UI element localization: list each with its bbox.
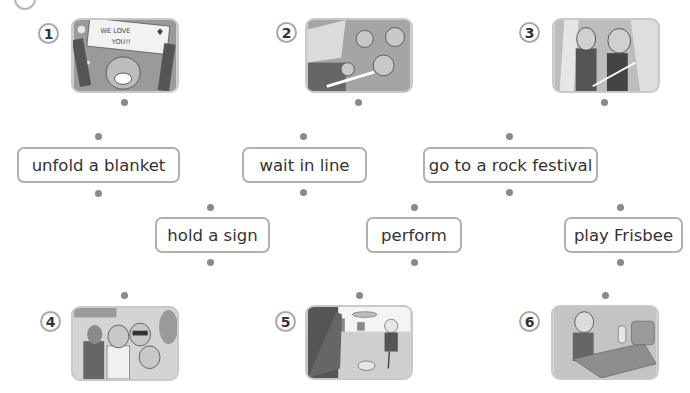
phrase-box-unfold-a-blanket: unfold a blanket: [17, 147, 180, 183]
picture-5-connector-dot[interactable]: [356, 292, 363, 299]
phrase-perform-top-dot[interactable]: [411, 204, 418, 211]
phrase-label: wait in line: [260, 156, 350, 175]
phrase-box-hold-a-sign: hold a sign: [155, 217, 270, 253]
phrase-wait-in-line-bottom-dot[interactable]: [300, 189, 307, 196]
phrase-label: hold a sign: [167, 226, 257, 245]
picture-number-6: 6: [519, 311, 540, 332]
picture-number-4: 4: [40, 311, 61, 332]
picture-1-connector-dot[interactable]: [121, 99, 128, 106]
picture-number-3: 3: [519, 22, 540, 43]
number-label: 4: [46, 314, 56, 330]
number-label: 5: [281, 314, 291, 330]
phrase-unfold-a-blanket-top-dot[interactable]: [95, 133, 102, 140]
picture-6-connector-dot[interactable]: [602, 292, 609, 299]
picture-4-illustration: [73, 308, 177, 379]
number-label: 3: [525, 25, 535, 41]
picture-2-connector-dot[interactable]: [355, 99, 362, 106]
picture-5-illustration: [307, 307, 411, 378]
picture-3-connector-dot[interactable]: [601, 99, 608, 106]
phrase-hold-a-sign-bottom-dot[interactable]: [207, 259, 214, 266]
picture-number-1: 1: [38, 23, 59, 44]
phrase-unfold-a-blanket-bottom-dot[interactable]: [95, 190, 102, 197]
phrase-go-to-a-rock-festival-top-dot[interactable]: [506, 133, 513, 140]
picture-number-2: 2: [276, 22, 297, 43]
picture-6-illustration: [553, 307, 657, 378]
number-label: 2: [282, 25, 292, 41]
picture-6-unfold-blanket: [551, 305, 659, 380]
phrase-hold-a-sign-top-dot[interactable]: [207, 204, 214, 211]
phrase-box-wait-in-line: wait in line: [242, 147, 367, 183]
picture-4-connector-dot[interactable]: [121, 292, 128, 299]
phrase-wait-in-line-top-dot[interactable]: [300, 133, 307, 140]
picture-1-illustration: WE LOVE YOU!!: [73, 20, 177, 91]
phrase-label: unfold a blanket: [32, 156, 166, 175]
phrase-play-frisbee-bottom-dot[interactable]: [617, 259, 624, 266]
phrase-label: perform: [381, 226, 447, 245]
phrase-label: play Frisbee: [574, 226, 673, 245]
phrase-box-go-to-a-rock-festival: go to a rock festival: [423, 147, 598, 183]
phrase-perform-bottom-dot[interactable]: [411, 259, 418, 266]
number-label: 6: [525, 314, 535, 330]
phrase-label: go to a rock festival: [429, 156, 592, 175]
picture-2-illustration: [307, 20, 411, 91]
picture-3-illustration: [554, 20, 658, 91]
phrase-play-frisbee-top-dot[interactable]: [617, 204, 624, 211]
instruction-number-marker: [14, 0, 36, 10]
phrase-box-play-frisbee: play Frisbee: [564, 217, 683, 253]
phrase-box-perform: perform: [366, 217, 462, 253]
picture-5-play-frisbee: [305, 305, 413, 380]
picture-number-5: 5: [275, 311, 296, 332]
sign-text-line1: WE LOVE: [100, 27, 130, 35]
picture-3-perform: [552, 18, 660, 93]
picture-1-hold-sign: WE LOVE YOU!!: [71, 18, 179, 93]
number-label: 1: [44, 26, 54, 42]
picture-4-go-to-rock-festival: [71, 306, 179, 381]
picture-2-wait-in-line: [305, 18, 413, 93]
phrase-go-to-a-rock-festival-bottom-dot[interactable]: [506, 189, 513, 196]
sign-text-line2: YOU!!: [111, 38, 131, 46]
